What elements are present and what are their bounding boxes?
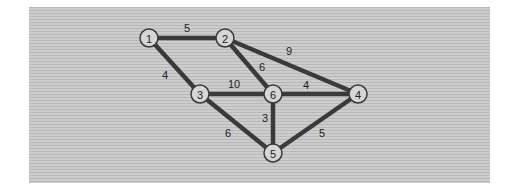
graph-diagram: 5496104635 123645	[0, 0, 514, 192]
node-3: 3	[191, 85, 209, 103]
node-label: 6	[270, 89, 276, 101]
node-label: 4	[355, 89, 361, 101]
edge-4-5	[273, 94, 358, 153]
node-label: 1	[146, 33, 152, 45]
edge-1-3	[149, 38, 200, 94]
node-label: 5	[270, 148, 276, 160]
edge-weight-label: 5	[184, 22, 190, 34]
node-label: 3	[197, 89, 203, 101]
node-6: 6	[264, 85, 282, 103]
edge-weight-label: 6	[259, 61, 265, 73]
edge-weight-label: 6	[225, 127, 231, 139]
edge-weight-label: 5	[319, 127, 325, 139]
node-4: 4	[349, 85, 367, 103]
node-5: 5	[264, 144, 282, 162]
node-1: 1	[140, 29, 158, 47]
edge-weight-label: 4	[303, 79, 309, 91]
edge-weight-label: 10	[228, 78, 240, 90]
node-label: 2	[222, 33, 228, 45]
edge-weight-label: 3	[262, 112, 268, 124]
edges-group	[149, 38, 358, 153]
edge-weight-label: 4	[162, 69, 168, 81]
node-2: 2	[216, 29, 234, 47]
edge-weight-label: 9	[286, 45, 292, 57]
